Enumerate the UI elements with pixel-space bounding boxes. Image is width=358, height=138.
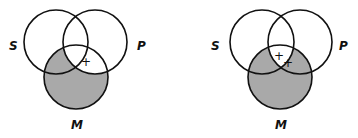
label-p-right: P bbox=[339, 39, 348, 53]
venn-diagrams: S P M + S P M + + bbox=[0, 0, 358, 138]
venn-diagram-left: S P M + bbox=[0, 0, 179, 138]
label-s-left: S bbox=[9, 39, 18, 53]
venn-diagram-right: S P M + + bbox=[179, 0, 358, 138]
label-m-left: M bbox=[71, 118, 83, 132]
shaded-region-left bbox=[0, 0, 179, 138]
label-p-left: P bbox=[137, 39, 146, 53]
label-s-right: S bbox=[211, 39, 220, 53]
plus-mark-right-2: + bbox=[283, 56, 293, 70]
shaded-region-right bbox=[179, 0, 358, 138]
plus-mark-left: + bbox=[81, 55, 91, 69]
label-m-right: M bbox=[275, 118, 287, 132]
